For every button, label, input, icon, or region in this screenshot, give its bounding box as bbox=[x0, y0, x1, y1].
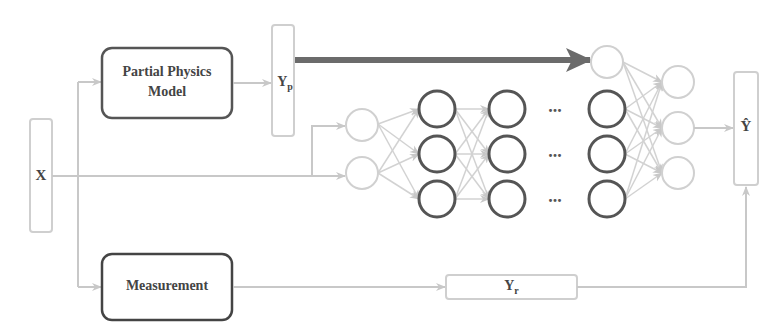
yr-label-main: Y bbox=[504, 278, 514, 293]
output-neuron bbox=[662, 112, 694, 144]
hidden-last-neuron bbox=[589, 181, 625, 217]
hidden1-neuron bbox=[419, 91, 455, 127]
yhat-label: Ŷ bbox=[734, 118, 758, 135]
measurement-label: Measurement bbox=[102, 278, 232, 294]
x-to-nn-branch bbox=[312, 126, 345, 176]
yp-label-main: Y bbox=[277, 74, 287, 89]
ellipsis-row-2: ... bbox=[540, 141, 570, 162]
hidden2-neuron bbox=[489, 91, 525, 127]
input-x-label: X bbox=[30, 167, 52, 184]
physics-model-label-line1: Partial Physics bbox=[102, 62, 232, 82]
connections-hidden1-hidden2 bbox=[455, 109, 489, 199]
connections-last-output bbox=[623, 62, 662, 199]
hidden-last-neuron bbox=[589, 91, 625, 127]
yp-label-sub: p bbox=[287, 81, 293, 92]
output-neuron bbox=[662, 157, 694, 189]
injected-physics-neuron bbox=[591, 46, 623, 78]
connections-input-hidden1 bbox=[378, 109, 419, 199]
hidden2-neuron bbox=[489, 181, 525, 217]
output-neuron bbox=[662, 66, 694, 98]
hidden1-neuron bbox=[419, 136, 455, 172]
yp-label: Yp bbox=[272, 74, 298, 92]
yr-label: Yr bbox=[446, 278, 577, 296]
hidden1-neuron bbox=[419, 181, 455, 217]
hidden-last-neuron bbox=[589, 136, 625, 172]
input-neuron bbox=[346, 157, 378, 189]
physics-model-label-line2: Model bbox=[102, 82, 232, 102]
input-neuron bbox=[346, 109, 378, 141]
physics-model-label: Partial Physics Model bbox=[102, 62, 232, 102]
ellipsis-row-3: ... bbox=[540, 186, 570, 207]
yr-label-sub: r bbox=[514, 285, 518, 296]
ellipsis-row-1: ... bbox=[540, 96, 570, 117]
hidden2-neuron bbox=[489, 136, 525, 172]
